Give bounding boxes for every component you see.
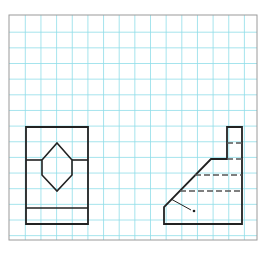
leader-point [193, 210, 196, 213]
grid-paper-diagram [0, 0, 267, 254]
